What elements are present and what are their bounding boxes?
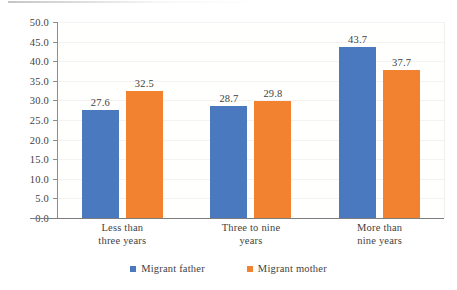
bar[interactable]: 43.7: [339, 47, 376, 218]
y-axis-tick-label: 5.0: [35, 193, 49, 204]
bar[interactable]: 27.6: [82, 110, 119, 218]
bar-chart: 0.05.010.015.020.025.030.035.040.045.050…: [0, 0, 457, 290]
bar-group: 27.632.5: [58, 22, 187, 218]
legend-item-label: Migrant mother: [258, 263, 327, 274]
y-axis-tick-label: 25.0: [30, 115, 49, 126]
bar[interactable]: 32.5: [126, 91, 163, 218]
bar[interactable]: 37.7: [383, 70, 420, 218]
bar[interactable]: 28.7: [210, 106, 247, 219]
y-axis-tick-label: 10.0: [30, 173, 49, 184]
y-axis-tick-label: 35.0: [30, 75, 49, 86]
y-axis-tick-label: 20.0: [30, 134, 49, 145]
bar-value-label: 29.8: [263, 88, 282, 99]
x-axis-tick-label: More than nine years: [315, 222, 444, 247]
y-axis-tick-label: 50.0: [30, 17, 49, 28]
y-axis-tick-label: 40.0: [30, 56, 49, 67]
bar-value-label: 37.7: [392, 57, 411, 68]
bar-value-label: 43.7: [348, 34, 367, 45]
x-axis-line: [30, 218, 444, 219]
x-axis-tick-label: Three to nine years: [187, 222, 316, 247]
y-axis-tick-label: 15.0: [30, 154, 49, 165]
bar-group: 43.737.7: [315, 22, 444, 218]
legend-item[interactable]: Migrant mother: [247, 263, 327, 274]
y-axis-tick-label: 45.0: [30, 36, 49, 47]
bar-group: 28.729.8: [187, 22, 316, 218]
legend-swatch-orange: [247, 266, 253, 272]
chart-legend: Migrant fatherMigrant mother: [0, 263, 457, 274]
bar-value-label: 28.7: [219, 93, 238, 104]
legend-item-label: Migrant father: [141, 263, 205, 274]
bars-layer: 27.632.528.729.843.737.7: [58, 22, 444, 218]
bar-value-label: 32.5: [135, 78, 154, 89]
bar-value-label: 27.6: [91, 97, 110, 108]
x-axis-tick-label: Less than three years: [58, 222, 187, 247]
scan-artifact-line: [8, 1, 258, 3]
bar[interactable]: 29.8: [254, 101, 291, 218]
legend-swatch-blue: [130, 266, 136, 272]
legend-item[interactable]: Migrant father: [130, 263, 205, 274]
y-axis-tick-label: 30.0: [30, 95, 49, 106]
x-axis-tick-labels: Less than three yearsThree to nine years…: [58, 222, 444, 254]
